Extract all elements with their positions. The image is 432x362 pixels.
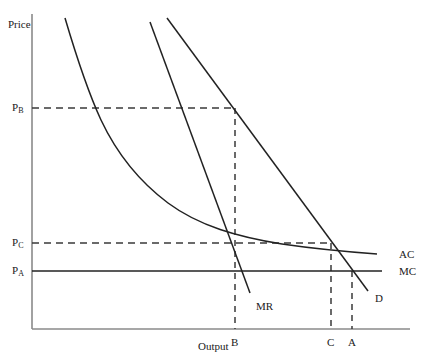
average-cost-curve: [65, 18, 377, 254]
y-tick-price-a: PA: [12, 265, 24, 278]
marginal-revenue-label: MR: [256, 301, 273, 312]
y-axis-title: Price: [8, 19, 31, 30]
x-axis-title: Output: [198, 341, 229, 352]
average-cost-label: AC: [399, 249, 414, 260]
y-tick-price-a-sub: A: [18, 269, 24, 278]
y-tick-price-b: PB: [12, 102, 23, 115]
chart-canvas: [0, 0, 432, 362]
marginal-cost-label: MC: [399, 266, 416, 277]
y-tick-price-c-sub: C: [18, 241, 23, 250]
x-tick-b: B: [231, 337, 238, 348]
x-tick-a: A: [348, 337, 356, 348]
demand-curve: [167, 18, 368, 291]
y-tick-price-c: PC: [12, 237, 23, 250]
y-tick-price-b-sub: B: [18, 106, 23, 115]
monopolistic-competition-chart: Price Output PB PC PA B C A AC MC D MR: [0, 0, 432, 362]
x-tick-c: C: [327, 337, 334, 348]
demand-label: D: [375, 293, 383, 304]
